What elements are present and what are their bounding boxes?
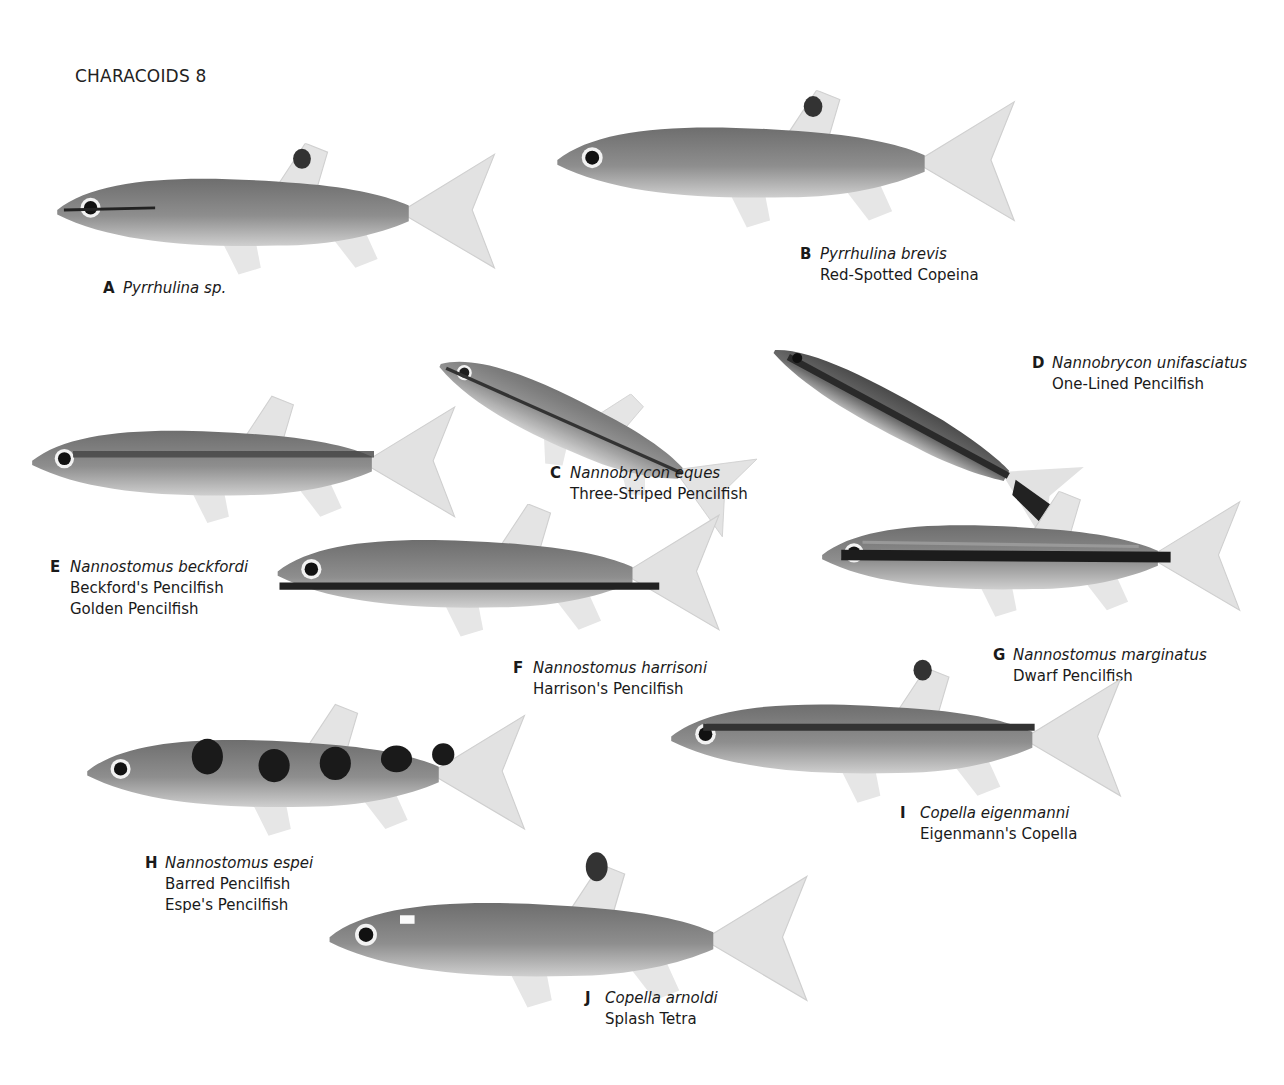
species-label-e: ENannostomus beckfordi Beckford's Pencil… bbox=[50, 557, 248, 620]
species-label-i: ICopella eigenmanni Eigenmann's Copella bbox=[900, 803, 1077, 845]
fish-illustration-h bbox=[85, 675, 530, 845]
species-label-b: BPyrrhulina brevis Red-Spotted Copeina bbox=[800, 244, 979, 286]
fish-illustration-b bbox=[555, 90, 1020, 230]
fish-illustration-g bbox=[820, 485, 1245, 625]
species-label-j: JCopella arnoldi Splash Tetra bbox=[585, 988, 718, 1030]
fish-illustration-j bbox=[325, 840, 815, 1010]
fish-illustration-e bbox=[30, 370, 460, 530]
fish-illustration-a bbox=[55, 140, 500, 280]
species-label-d: DNannobrycon unifasciatus One-Lined Penc… bbox=[1032, 353, 1247, 395]
species-label-a: APyrrhulina sp. bbox=[103, 278, 226, 299]
species-label-h: HNannostomus espei Barred Pencilfish Esp… bbox=[145, 853, 313, 916]
fish-illustration-f bbox=[255, 510, 745, 645]
species-label-c: CNannobrycon eques Three-Striped Pencilf… bbox=[550, 463, 748, 505]
fish-illustration-i bbox=[665, 645, 1130, 805]
page-title: CHARACOIDS 8 bbox=[75, 66, 207, 86]
